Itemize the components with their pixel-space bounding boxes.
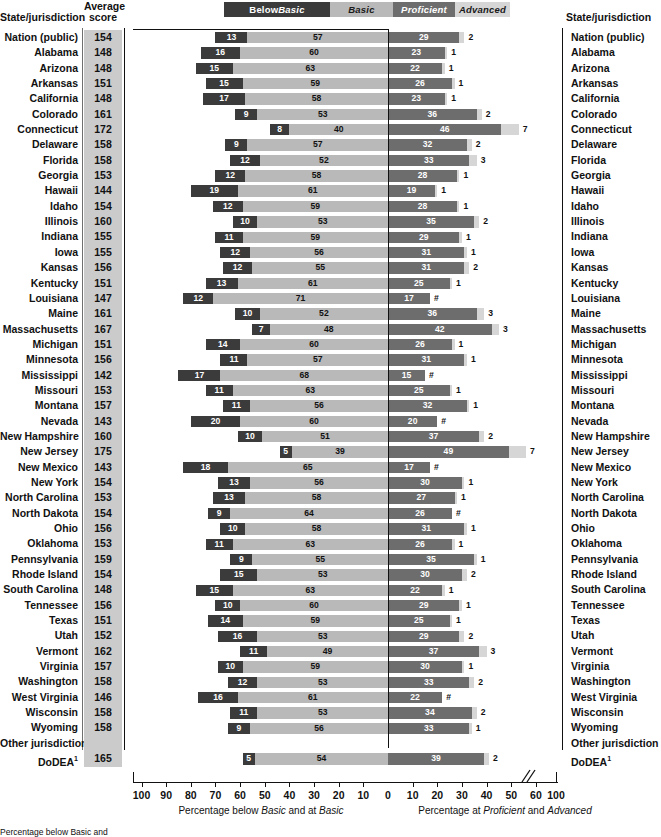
segment-advanced (469, 723, 471, 734)
segment-advanced (464, 523, 466, 534)
segment-advanced-value-label: # (441, 416, 446, 427)
footnote-text: Percentage below Basic and (0, 827, 108, 837)
segment-below-basic: 12 (223, 262, 253, 273)
axis-caption-right-mid: and (525, 805, 547, 816)
segment-advanced (462, 477, 464, 488)
table-row: 5611321 (133, 400, 558, 411)
header-state-jurisdiction-left: State/jurisdiction (0, 12, 80, 23)
state-label-left: Utah (0, 628, 80, 643)
x-axis-tick-label: 40 (475, 789, 499, 801)
segment-below-basic: 16 (218, 631, 257, 642)
segment-proficient: 36 (388, 308, 477, 319)
zero-axis-line (388, 30, 389, 748)
segment-advanced (452, 78, 454, 89)
segment-proficient: 20 (388, 416, 437, 427)
table-row: 5316292 (133, 631, 558, 642)
segment-proficient: 22 (388, 692, 442, 703)
segment-basic: 55 (252, 554, 388, 565)
segment-advanced (464, 262, 469, 273)
state-label-right: Utah (566, 628, 661, 643)
x-axis-tick-label: 90 (154, 789, 178, 801)
state-label-right: New Jersey (566, 444, 661, 459)
state-label-left: Indiana (0, 229, 80, 244)
segment-below-basic: 20 (191, 416, 240, 427)
segment-below-basic: 15 (196, 585, 233, 596)
state-label-left: Alabama (0, 45, 80, 60)
x-axis-tick (339, 782, 340, 787)
state-name-column-right: Nation (public)AlabamaArizonaArkansasCal… (566, 30, 661, 767)
state-label-right: South Carolina (566, 582, 661, 597)
state-label-right: Texas (566, 613, 661, 628)
x-axis-tick (240, 782, 241, 787)
segment-advanced (477, 109, 482, 120)
state-label-right: Maine (566, 306, 661, 321)
x-axis-line (133, 782, 558, 783)
table-row: 569331 (133, 723, 558, 734)
segment-below-basic: 15 (196, 63, 233, 74)
state-label-left: Nevada (0, 414, 80, 429)
segment-advanced-value-label: 1 (468, 477, 473, 488)
average-score-value: 158 (84, 705, 122, 720)
state-label-left: Vermont (0, 644, 80, 659)
state-label-left: New Hampshire (0, 429, 80, 444)
state-label-right: Connecticut (566, 122, 661, 137)
segment-basic: 61 (238, 185, 388, 196)
table-row: 711217# (133, 293, 558, 304)
legend-label-below-basic-plain: Below (249, 4, 278, 15)
segment-advanced-value-label: 1 (459, 339, 464, 350)
vertical-rule-left (124, 28, 125, 750)
segment-advanced (457, 201, 459, 212)
x-axis-tick-label: 80 (179, 789, 203, 801)
segment-advanced-value-label: 2 (483, 216, 488, 227)
segment-advanced-value-label: 2 (473, 262, 478, 273)
segment-basic: 57 (247, 139, 388, 150)
table-row: 5312332 (133, 677, 558, 688)
segment-proficient: 23 (388, 47, 445, 58)
segment-advanced-value-label: 1 (463, 170, 468, 181)
state-label-left: Virginia (0, 659, 80, 674)
state-label-right: Vermont (566, 644, 661, 659)
segment-basic: 56 (250, 477, 388, 488)
x-axis-tick (363, 782, 364, 787)
state-label-left: Ohio (0, 521, 80, 536)
segment-basic: 55 (252, 262, 388, 273)
x-axis-tick (511, 782, 512, 787)
segment-advanced (435, 185, 437, 196)
average-score-value: 154 (84, 30, 122, 45)
average-score-value: 148 (84, 45, 122, 60)
table-row: 5810311 (133, 523, 558, 534)
state-label-left: New Jersey (0, 444, 80, 459)
state-label-right: Minnesota (566, 352, 661, 367)
average-score-value: 154 (84, 199, 122, 214)
segment-basic: 63 (233, 585, 388, 596)
state-label-right: Pennsylvania (566, 552, 661, 567)
segment-basic: 53 (257, 569, 388, 580)
segment-below-basic: 7 (252, 324, 269, 335)
table-row: 5612311 (133, 247, 558, 258)
segment-basic: 68 (220, 370, 388, 381)
segment-basic: 57 (247, 354, 388, 365)
state-label-right: Illinois (566, 214, 661, 229)
segment-advanced-value-label: 2 (471, 569, 476, 580)
segment-proficient: 30 (388, 569, 462, 580)
achievement-level-legend: Below Basic Basic Proficient Advanced (224, 2, 510, 17)
segment-advanced-value-label: # (434, 293, 439, 304)
segment-advanced (462, 661, 464, 672)
segment-proficient: 46 (388, 124, 501, 135)
footnote-marker: 1 (74, 755, 78, 762)
table-row: 681715# (133, 370, 558, 381)
state-label-left: Mississippi (0, 368, 80, 383)
segment-below-basic: 12 (230, 155, 260, 166)
segment-advanced-value-label: 1 (451, 93, 456, 104)
table-row: 5817231 (133, 93, 558, 104)
segment-proficient: 19 (388, 185, 435, 196)
average-score-value: 151 (84, 76, 122, 91)
table-row: 5110372 (133, 431, 558, 442)
segment-below-basic: 10 (233, 216, 258, 227)
segment-below-basic: 11 (240, 646, 267, 657)
state-label-left: North Dakota (0, 506, 80, 521)
segment-advanced-value-label: 2 (468, 32, 473, 43)
segment-proficient: 37 (388, 431, 479, 442)
segment-advanced (450, 278, 452, 289)
x-axis-right-cap (556, 772, 557, 783)
